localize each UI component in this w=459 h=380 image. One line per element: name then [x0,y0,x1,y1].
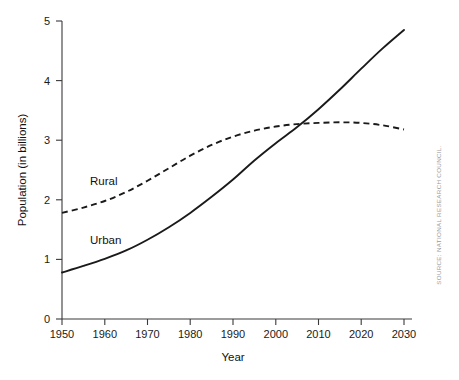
series-label-rural: Rural [90,175,117,187]
x-tick-label: 2010 [306,328,330,340]
series-label-urban: Urban [90,234,121,246]
y-tick-label: 0 [44,313,50,325]
x-tick-label: 1960 [93,328,117,340]
x-axis-tick-labels: 1950 1960 1970 1980 1990 2000 2010 2020 … [50,328,416,340]
y-tick-label: 4 [44,75,50,87]
x-tick-label: 1970 [135,328,159,340]
y-tick-label: 2 [44,194,50,206]
y-axis-ticks [56,21,62,319]
x-tick-label: 1990 [221,328,245,340]
y-tick-label: 3 [44,134,50,146]
x-tick-label: 1950 [50,328,74,340]
y-axis-title: Population (in billions) [16,114,28,227]
population-line-chart: 5 4 3 2 1 0 1950 1960 1970 1980 1990 200… [0,0,459,380]
x-axis-ticks [62,319,404,325]
chart-figure: 5 4 3 2 1 0 1950 1960 1970 1980 1990 200… [0,0,459,380]
x-tick-label: 2000 [264,328,288,340]
y-tick-label: 5 [44,15,50,27]
x-tick-label: 2030 [392,328,416,340]
x-axis-title: Year [221,351,244,363]
y-tick-label: 1 [44,253,50,265]
x-tick-label: 2020 [349,328,373,340]
source-note: SOURCE: NATIONAL RESEARCH COUNCIL. [435,145,442,284]
y-axis-tick-labels: 5 4 3 2 1 0 [44,15,50,325]
x-tick-label: 1980 [178,328,202,340]
series-line-rural [62,122,404,213]
